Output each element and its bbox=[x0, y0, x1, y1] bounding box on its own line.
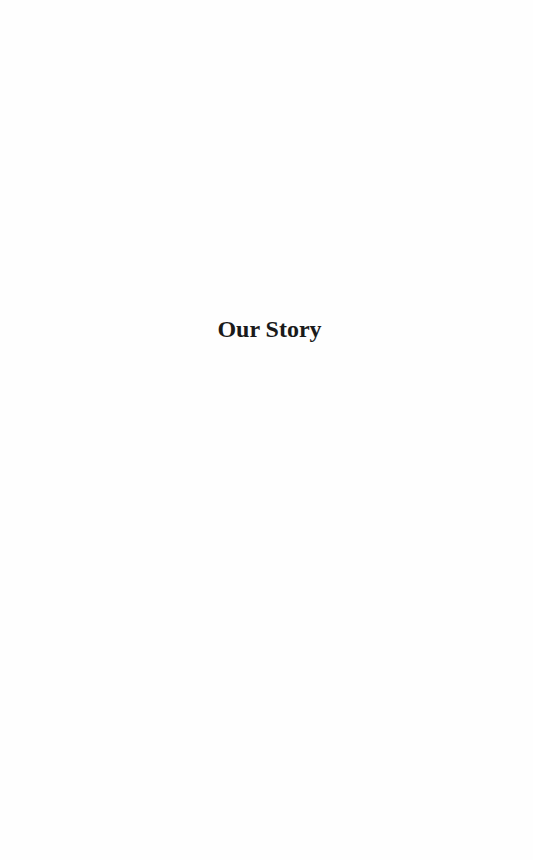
document-page: Our Story bbox=[0, 0, 533, 860]
page-title: Our Story bbox=[0, 313, 533, 345]
